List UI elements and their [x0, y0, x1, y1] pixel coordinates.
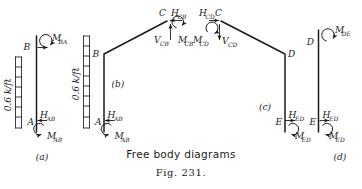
label-med-panel-c-subscript: ED [301, 136, 311, 143]
label-hed-panel-c-subscript: ED [294, 115, 304, 122]
label-joint-e-panel-c: E [274, 117, 282, 127]
label-mab-panel-b-subscript: AB [120, 136, 130, 143]
label-vcb-subscript: CB [160, 40, 170, 47]
figure-caption: Free body diagrams [0, 148, 362, 160]
label-joint-a-panel-a: A [27, 117, 35, 127]
moment-arc-mab-panel-a [34, 124, 44, 135]
label-joint-a-panel-b: A [94, 117, 102, 127]
label-joint-e-panel-d: E [308, 117, 316, 127]
load-rail-a-left [16, 57, 22, 128]
figure-number: Fig. 231. [0, 167, 362, 178]
load-rail-b-left [84, 36, 90, 128]
label-mcd-subscript: CD [200, 40, 210, 47]
label-hcd-subscript: CD [206, 13, 216, 20]
member-cde-panel-c [221, 21, 285, 132]
free-body-diagram-canvas: 0.6 k/ft B M BA A H AB M AB (a) 0.6 k/ft… [0, 0, 362, 189]
figure-free-body-diagrams: 0.6 k/ft B M BA A H AB M AB (a) 0.6 k/ft… [0, 0, 362, 189]
label-joint-c-panel-c: C [215, 8, 222, 18]
label-load-left: 0.6 k/ft [3, 78, 13, 111]
moment-arc-mde [322, 29, 334, 41]
label-vcd-subscript: CD [228, 41, 238, 48]
label-med-panel-d-subscript: ED [335, 136, 345, 143]
label-joint-b-panel-a: B [22, 42, 30, 52]
panel-label-c: (c) [259, 102, 272, 112]
label-load-right: 0.6 k/ft [71, 67, 81, 100]
label-joint-d-panel-d: D [306, 37, 314, 47]
label-joint-b-panel-b: B [91, 49, 99, 59]
label-hed-panel-d-subscript: ED [328, 115, 338, 122]
moment-arc-mba [40, 35, 52, 47]
label-hab-panel-b-subscript: AB [113, 115, 123, 122]
label-joint-c-panel-b: C [159, 8, 166, 18]
label-joint-d-panel-c: D [287, 49, 295, 59]
label-mde-subscript: DE [341, 30, 352, 37]
label-mab-panel-a-subscript: AB [53, 136, 63, 143]
moment-arc-mab-panel-b [101, 124, 111, 135]
panel-label-b: (b) [112, 79, 125, 89]
moment-arc-mcd [206, 22, 218, 33]
label-mba-subscript: BA [58, 38, 68, 45]
label-hab-panel-a-subscript: AB [46, 115, 56, 122]
label-hcb-subscript: CB [178, 13, 188, 20]
